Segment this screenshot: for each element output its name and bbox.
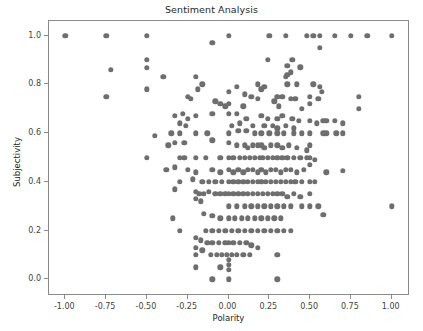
scatter-point (236, 228, 241, 233)
scatter-point (294, 169, 299, 174)
scatter-point (177, 228, 182, 233)
scatter-point (223, 104, 228, 109)
scatter-point (103, 94, 108, 99)
scatter-point (356, 106, 361, 111)
scatter-point (294, 145, 299, 150)
scatter-point (236, 128, 241, 133)
scatter-point (291, 130, 296, 135)
scatter-point (268, 143, 273, 148)
scatter-point (285, 155, 290, 160)
x-tick-mark (105, 295, 106, 299)
scatter-point (245, 216, 250, 221)
scatter-point (249, 94, 254, 99)
scatter-point (193, 130, 198, 135)
x-tick-mark (64, 295, 65, 299)
scatter-point (226, 111, 231, 116)
scatter-point (348, 33, 353, 38)
scatter-point (285, 194, 290, 199)
scatter-point (258, 87, 263, 92)
scatter-point (172, 113, 177, 118)
matplotlib-figure: Sentiment Analysis 0.00.20.40.60.81.0 -1… (0, 0, 423, 331)
scatter-point (258, 216, 263, 221)
scatter-point (278, 216, 283, 221)
scatter-point (340, 130, 345, 135)
scatter-point (280, 94, 285, 99)
scatter-point (190, 177, 195, 182)
scatter-point (218, 264, 223, 269)
scatter-point (268, 228, 273, 233)
scatter-point (356, 94, 361, 99)
scatter-point (293, 179, 298, 184)
scatter-point (281, 204, 286, 209)
x-tick-mark (309, 295, 310, 299)
scatter-point (249, 243, 254, 248)
scatter-point (198, 199, 203, 204)
scatter-point (219, 179, 224, 184)
scatter-point (203, 228, 208, 233)
scatter-point (324, 118, 329, 123)
scatter-point (193, 264, 198, 269)
scatter-point (193, 169, 198, 174)
scatter-point (307, 101, 312, 106)
x-tick-label: 1.00 (361, 302, 421, 311)
scatter-point (289, 57, 294, 62)
scatter-point (172, 165, 177, 170)
scatter-point (389, 33, 394, 38)
scatter-point (144, 87, 149, 92)
scatter-point (232, 216, 237, 221)
scatter-point (285, 63, 290, 68)
scatter-point (389, 204, 394, 209)
scatter-point (332, 118, 337, 123)
y-tick-mark (44, 83, 48, 84)
scatter-point (317, 33, 322, 38)
scatter-point (201, 211, 206, 216)
scatter-point (200, 179, 205, 184)
scatter-point (299, 130, 304, 135)
x-axis-label: Polarity (48, 313, 409, 323)
scatter-point (340, 168, 345, 173)
scatter-point (319, 89, 324, 94)
scatter-point (296, 118, 301, 123)
scatter-point (177, 121, 182, 126)
scatter-point (193, 74, 198, 79)
scatter-point (223, 228, 228, 233)
y-tick-label: 0.2 (1, 225, 41, 234)
scatter-point (209, 213, 214, 218)
scatter-point (268, 204, 273, 209)
scatter-point (307, 204, 312, 209)
scatter-point (208, 252, 213, 257)
scatter-point (188, 96, 193, 101)
scatter-point (275, 228, 280, 233)
scatter-point (312, 179, 317, 184)
scatter-point (182, 140, 187, 145)
scatter-point (209, 40, 214, 45)
scatter-point (311, 82, 316, 87)
scatter-point (226, 204, 231, 209)
scatter-point (161, 74, 166, 79)
x-tick-mark (268, 295, 269, 299)
scatter-point (262, 228, 267, 233)
scatter-point (258, 113, 263, 118)
scatter-point (240, 104, 245, 109)
scatter-point (231, 155, 236, 160)
y-tick-mark (44, 278, 48, 279)
scatter-point (209, 277, 214, 282)
scatter-point (299, 204, 304, 209)
y-tick-mark (44, 230, 48, 231)
y-tick-label: 1.0 (1, 30, 41, 39)
scatter-point (213, 179, 218, 184)
scatter-point (177, 130, 182, 135)
x-tick-mark (187, 295, 188, 299)
scatter-point (283, 33, 288, 38)
scatter-point (209, 240, 214, 245)
scatter-point (185, 116, 190, 121)
scatter-point (180, 111, 185, 116)
scatter-point (312, 157, 317, 162)
scatter-point (255, 228, 260, 233)
scatter-point (63, 33, 68, 38)
scatter-point (209, 111, 214, 116)
scatter-point (240, 252, 245, 257)
scatter-point (206, 189, 211, 194)
scatter-point (364, 33, 369, 38)
scatter-point (229, 228, 234, 233)
